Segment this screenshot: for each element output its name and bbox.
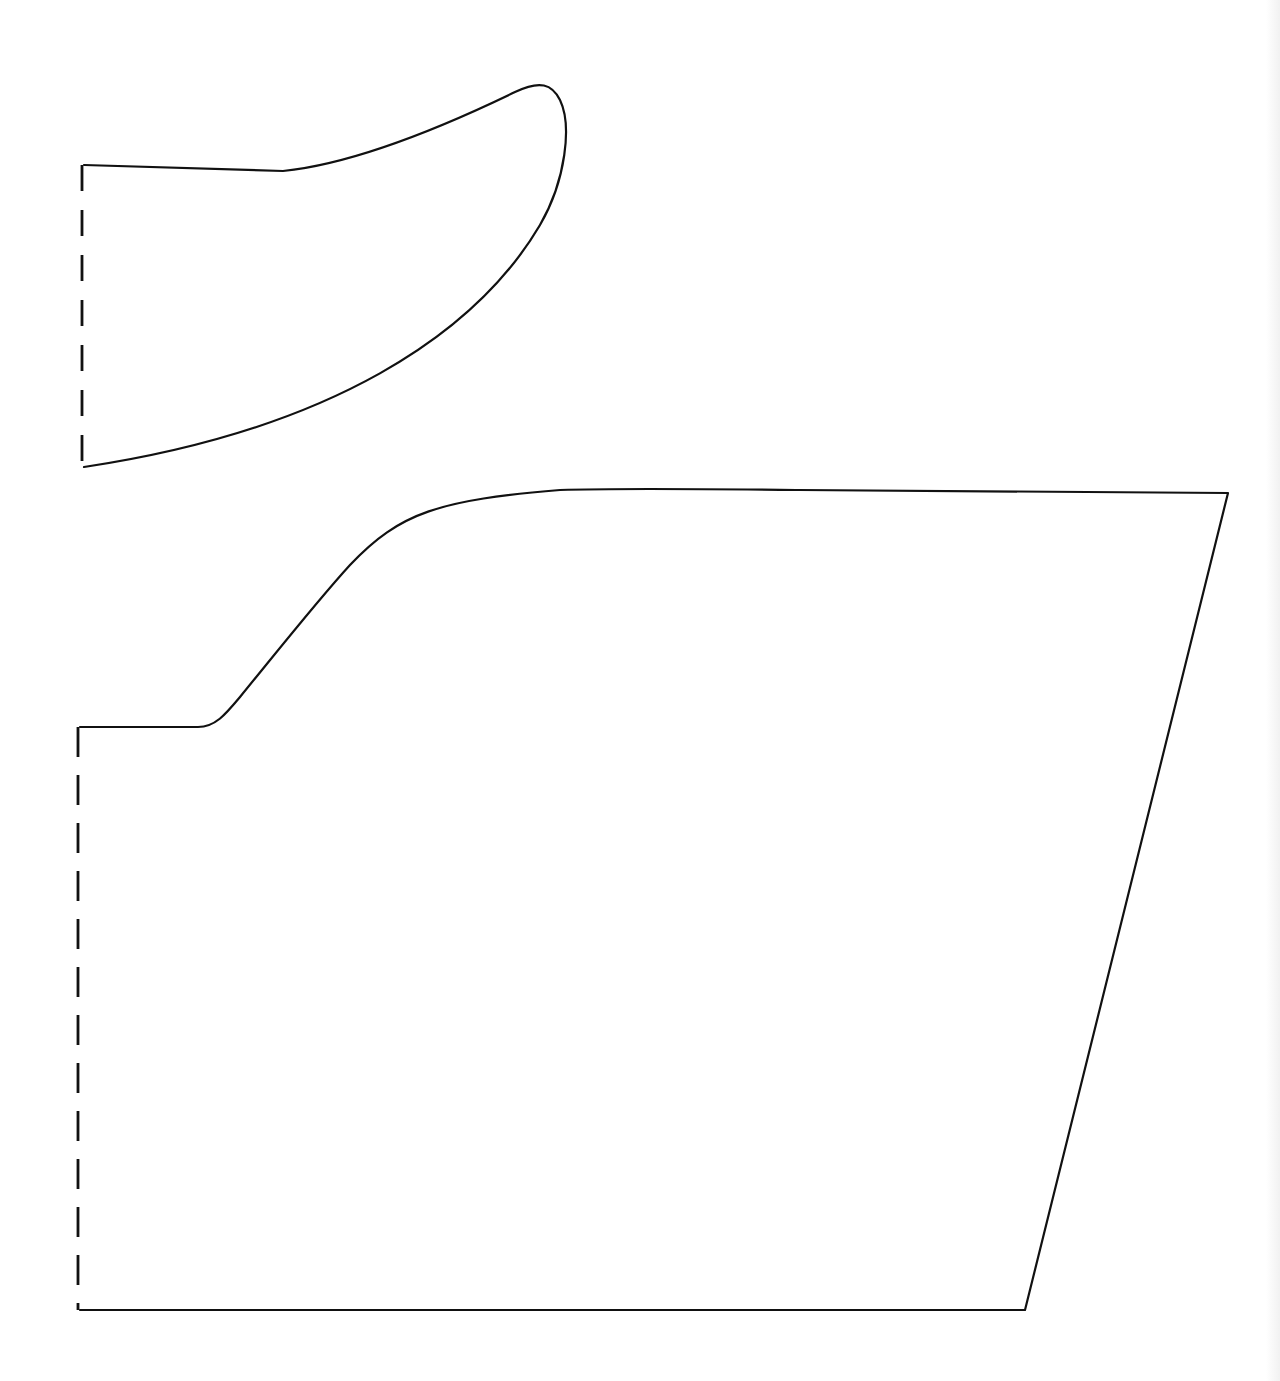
scan-edge-shade [1266, 0, 1280, 1381]
pattern-canvas [0, 0, 1280, 1381]
lower-pattern-piece [78, 489, 1228, 1310]
upper-pattern-piece [82, 85, 566, 467]
upper-piece-outline [84, 85, 566, 467]
lower-piece-outline [80, 489, 1228, 1310]
